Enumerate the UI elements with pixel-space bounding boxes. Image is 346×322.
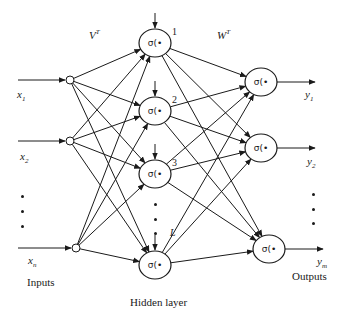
input-hidden-edge xyxy=(74,116,140,139)
output-node-2-activation: σ(• xyxy=(254,143,269,153)
input-node-x1 xyxy=(66,76,74,84)
hidden-output-edge xyxy=(170,48,247,76)
hidden-output-edge xyxy=(166,92,249,164)
input-label-x2: x2 xyxy=(20,150,28,165)
hidden-output-edge xyxy=(171,251,253,263)
hidden-ellipsis-dot xyxy=(154,232,157,235)
hidden-node-2-activation: σ(• xyxy=(148,106,163,116)
hidden-index-1: 1 xyxy=(172,26,177,37)
input-hidden-edge xyxy=(77,56,149,244)
output-ellipsis-dot xyxy=(312,208,315,211)
input-ellipsis-dot xyxy=(21,225,24,228)
hidden-index-3: 3 xyxy=(172,157,177,168)
input-hidden-edge xyxy=(74,49,141,78)
output-ellipsis-dot xyxy=(312,193,315,196)
input-hidden-edge xyxy=(80,249,140,262)
output-weight-label: WT xyxy=(217,28,230,41)
hidden-layer-caption: Hidden layer xyxy=(130,296,187,308)
input-weight-label: VT xyxy=(89,28,100,41)
hidden-output-edge xyxy=(170,86,245,107)
input-hidden-edge xyxy=(73,83,145,163)
input-node-x2 xyxy=(66,137,74,145)
input-hidden-edge xyxy=(72,84,149,252)
output-node-m-activation: σ(• xyxy=(262,244,277,254)
output-label-y2: y2 xyxy=(307,155,315,170)
hidden-index-L: L xyxy=(170,227,176,238)
input-label-x1: x1 xyxy=(17,88,25,103)
output-label-y1: y1 xyxy=(305,88,313,103)
input-ellipsis-dot xyxy=(21,195,24,198)
hidden-index-2: 2 xyxy=(172,94,177,105)
outputs-caption: Outputs xyxy=(292,270,327,282)
hidden-ellipsis-dot xyxy=(154,218,157,221)
output-node-1-activation: σ(• xyxy=(254,77,269,87)
output-label-ym: ym xyxy=(317,255,327,270)
input-ellipsis-dot xyxy=(21,210,24,213)
input-hidden-edge xyxy=(74,81,140,105)
input-label-xn: xn xyxy=(28,254,36,269)
input-node-xn xyxy=(72,244,80,252)
hidden-output-edge xyxy=(168,182,256,240)
hidden-node-3-activation: σ(• xyxy=(148,169,163,179)
hidden-output-edge xyxy=(170,152,245,170)
hidden-ellipsis-dot xyxy=(154,203,157,206)
output-ellipsis-dot xyxy=(312,222,315,225)
hidden-output-edge xyxy=(166,53,251,137)
hidden-node-1-activation: σ(• xyxy=(148,38,163,48)
hidden-output-edge xyxy=(164,122,259,237)
network-nodes xyxy=(66,29,285,279)
hidden-node-L-activation: σ(• xyxy=(148,260,163,270)
connection-edges xyxy=(18,13,323,263)
inputs-caption: Inputs xyxy=(27,276,55,288)
